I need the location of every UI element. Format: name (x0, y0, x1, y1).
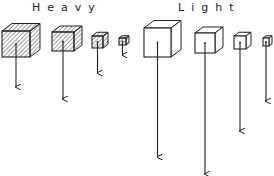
heavy-cube-tiny (119, 36, 129, 55)
light-cube-tiny (263, 36, 272, 101)
heavy-cubes-group (2, 24, 129, 100)
light-cubes-group (144, 21, 272, 175)
light-cube-small (234, 32, 251, 131)
heavy-cube-small (92, 32, 108, 73)
heavy-cube-large (2, 24, 40, 88)
light-cube-medium (195, 27, 223, 174)
light-cube-large (144, 21, 181, 158)
cubes-diagram (0, 0, 274, 176)
heavy-cube-medium (52, 26, 82, 99)
